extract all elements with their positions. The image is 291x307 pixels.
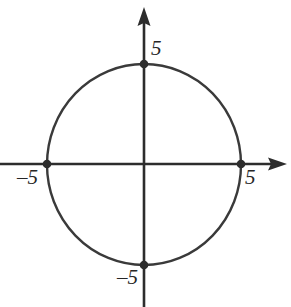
intercept-point-top: [140, 60, 149, 69]
intercept-point-right: [237, 160, 246, 169]
intercept-point-left: [43, 160, 52, 169]
y-axis-negative-label: –5: [117, 267, 138, 288]
y-axis-positive-label: 5: [151, 38, 162, 59]
coordinate-plane-svg: [0, 0, 291, 307]
x-axis-positive-label: 5: [245, 167, 256, 188]
x-axis-negative-label: –5: [17, 167, 38, 188]
intercept-point-bottom: [140, 261, 149, 270]
circle-graph-figure: 5 5 –5 –5: [0, 0, 291, 307]
